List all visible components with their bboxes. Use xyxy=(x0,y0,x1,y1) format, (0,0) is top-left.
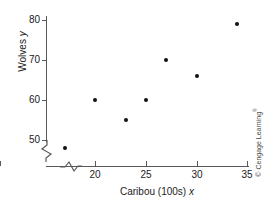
x-tick-20 xyxy=(95,161,96,166)
data-point xyxy=(93,98,97,102)
y-tick-label-50: 50 xyxy=(20,135,40,145)
y-axis-line xyxy=(46,16,47,142)
data-point xyxy=(124,118,128,122)
x-tick-35 xyxy=(247,161,248,166)
registered-trademark-icon: ® xyxy=(252,108,258,112)
data-point xyxy=(164,58,168,62)
y-axis-variable: y xyxy=(17,31,28,36)
data-point xyxy=(195,74,199,78)
y-tick-70 xyxy=(42,60,47,61)
y-tick-label-60: 60 xyxy=(20,95,40,105)
x-axis-title: Caribou (100s) x xyxy=(120,186,194,197)
y-axis-title: Wolves y xyxy=(17,12,28,92)
scatter-plot-figure: 50 60 70 80 20 25 30 35 Wolves y Caribou… xyxy=(0,0,279,205)
x-axis-variable: x xyxy=(189,186,194,197)
y-axis-break-icon xyxy=(40,140,54,162)
y-tick-50 xyxy=(42,140,47,141)
x-tick-label-25: 25 xyxy=(134,170,158,180)
copyright-text: © Cengage Learning xyxy=(255,112,262,177)
data-point xyxy=(63,146,67,150)
data-point xyxy=(235,22,239,26)
x-tick-25 xyxy=(146,161,147,166)
data-point xyxy=(144,98,148,102)
y-tick-60 xyxy=(42,100,47,101)
x-tick-placeholder xyxy=(0,161,1,166)
y-axis-title-text: Wolves xyxy=(17,39,28,72)
x-tick-30 xyxy=(197,161,198,166)
copyright-credit: © Cengage Learning® xyxy=(252,57,261,177)
x-axis-break-icon xyxy=(60,160,82,174)
x-tick-label-30: 30 xyxy=(185,170,209,180)
x-axis-title-text: Caribou (100s) xyxy=(120,186,186,197)
x-tick-label-20: 20 xyxy=(83,170,107,180)
y-tick-80 xyxy=(42,20,47,21)
